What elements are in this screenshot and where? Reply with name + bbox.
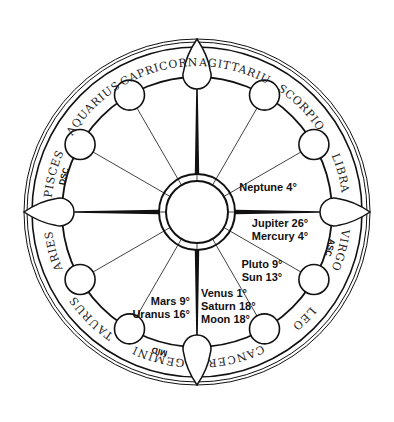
planet-entry: Sun 13° — [242, 271, 282, 283]
planet-entry: Jupiter 26° — [252, 217, 308, 229]
planet-group-house-11: Venus 1°Saturn 18°Moon 18° — [201, 287, 256, 325]
house-spoke — [216, 108, 257, 179]
cusp-line — [74, 210, 159, 214]
planet-entry: Pluto 9° — [241, 258, 282, 270]
planet-entry: Neptune 4° — [239, 181, 297, 193]
planet-entry: Venus 1° — [201, 287, 247, 299]
astrology-chart: CAPRICORNSAGITTARIUSSCORPIOLIBRAVIRGOLEO… — [0, 0, 394, 422]
sign-label-aries: ARIES — [42, 230, 65, 274]
house-circle — [65, 265, 95, 295]
sign-name: TAURUS — [66, 293, 115, 342]
house-circle — [299, 265, 329, 295]
house-circle — [299, 130, 329, 160]
cusp-line — [195, 89, 199, 174]
planet-group-house-2: Neptune 4° — [239, 181, 297, 193]
sign-name: ARIES — [42, 230, 65, 274]
house-spoke — [93, 152, 164, 193]
planet-group-house-12: Pluto 9°Sun 13° — [241, 258, 282, 283]
planet-entry: Uranus 16° — [132, 308, 190, 320]
planet-entry: Mercury 4° — [252, 230, 308, 242]
planet-group-house-10: Mars 9°Uranus 16° — [132, 295, 190, 320]
house-spoke — [93, 231, 164, 272]
planet-entry: Moon 18° — [201, 313, 250, 325]
cusp-line — [195, 250, 199, 335]
center-hub — [159, 174, 235, 250]
planet-entry: Saturn 18° — [201, 300, 256, 312]
cusp-line — [235, 210, 320, 214]
planet-entry: Mars 9° — [151, 295, 190, 307]
sign-name: LIBRA — [329, 152, 352, 195]
house-circle — [250, 314, 280, 344]
sign-name: AQUARIUS — [63, 79, 122, 139]
planet-group-house-1: Jupiter 26°Mercury 4° — [252, 217, 308, 242]
angle-name: MID — [150, 345, 168, 359]
house-spoke — [137, 108, 178, 179]
sign-label-libra: LIBRA — [329, 152, 352, 195]
hub-inner-ring — [166, 181, 228, 243]
sign-label-taurus: TAURUS — [66, 293, 115, 342]
angle-label-mid: MID — [150, 345, 168, 359]
sign-label-aquarius: AQUARIUS — [63, 79, 122, 139]
